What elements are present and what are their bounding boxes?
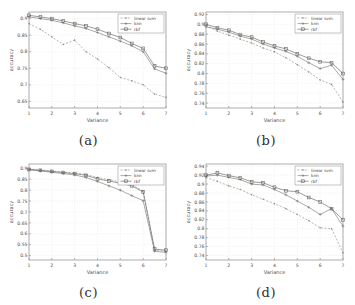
svg-text:knn: knn	[134, 21, 142, 26]
svg-text:0.82: 0.82	[194, 217, 204, 222]
svg-text:5: 5	[296, 111, 299, 116]
svg-text:0.75: 0.75	[17, 199, 27, 204]
svg-text:rbf: rbf	[134, 27, 140, 32]
svg-text:7: 7	[164, 111, 167, 116]
svg-text:4: 4	[273, 111, 276, 116]
svg-text:0.94: 0.94	[194, 164, 204, 169]
x-axis-label: Variance	[264, 117, 286, 123]
svg-text:0.8: 0.8	[20, 188, 27, 193]
svg-text:rbf: rbf	[134, 179, 140, 184]
svg-text:2: 2	[50, 263, 53, 268]
y-axis-label: accuracy	[7, 49, 14, 72]
legend: linear svmknnrbf	[118, 166, 164, 185]
svg-text:4: 4	[273, 263, 276, 268]
svg-text:0.86: 0.86	[194, 42, 204, 47]
x-axis-label: Variance	[86, 269, 108, 275]
subplot-caption-c: (c)	[79, 285, 98, 300]
legend: linear svmknnrbf	[295, 14, 341, 33]
svg-text:3: 3	[250, 263, 253, 268]
chart-canvas-d: 12345670.740.760.780.80.820.840.860.880.…	[183, 158, 349, 284]
chart-canvas-c: 12345670.50.550.60.650.70.750.80.850.9Va…	[6, 158, 172, 284]
svg-text:7: 7	[164, 263, 167, 268]
svg-text:0.6: 0.6	[20, 231, 27, 236]
svg-text:0.82: 0.82	[194, 61, 204, 66]
svg-text:2: 2	[227, 263, 230, 268]
svg-text:rbf: rbf	[311, 179, 317, 184]
x-axis-label: Variance	[264, 269, 286, 275]
svg-text:0.84: 0.84	[194, 51, 204, 56]
svg-text:knn: knn	[311, 173, 319, 178]
svg-text:0.86: 0.86	[194, 200, 204, 205]
svg-text:0.9: 0.9	[197, 182, 204, 187]
svg-text:linear svm: linear svm	[134, 168, 156, 173]
svg-text:0.7: 0.7	[20, 82, 27, 87]
svg-text:1: 1	[27, 263, 30, 268]
x-axis-label: Variance	[86, 117, 108, 123]
svg-text:0.88: 0.88	[194, 32, 204, 37]
svg-text:0.76: 0.76	[194, 244, 204, 249]
svg-text:1: 1	[27, 111, 30, 116]
svg-text:0.92: 0.92	[194, 173, 204, 178]
svg-text:linear svm: linear svm	[311, 16, 333, 21]
y-axis-label: accuracy	[185, 49, 192, 72]
svg-text:0.65: 0.65	[17, 221, 27, 226]
subplot-caption-a: (a)	[79, 133, 98, 148]
svg-text:knn: knn	[134, 173, 142, 178]
svg-text:0.8: 0.8	[20, 49, 27, 54]
svg-text:6: 6	[319, 111, 322, 116]
svg-text:2: 2	[50, 111, 53, 116]
y-axis-label: accuracy	[185, 201, 192, 224]
figure-2x2-grid: 12345670.650.70.750.80.850.9Varianceaccu…	[0, 0, 355, 305]
chart-canvas-a: 12345670.650.70.750.80.850.9Varianceaccu…	[6, 6, 172, 132]
svg-text:4: 4	[96, 263, 99, 268]
svg-text:0.85: 0.85	[17, 177, 27, 182]
svg-text:0.65: 0.65	[17, 99, 27, 104]
svg-text:0.78: 0.78	[194, 235, 204, 240]
svg-text:5: 5	[118, 111, 121, 116]
svg-text:1: 1	[205, 263, 208, 268]
svg-text:0.76: 0.76	[194, 91, 204, 96]
legend: linear svmknnrbf	[295, 166, 341, 185]
svg-text:0.84: 0.84	[194, 208, 204, 213]
svg-text:3: 3	[73, 111, 76, 116]
svg-text:0.9: 0.9	[20, 16, 27, 21]
svg-text:6: 6	[319, 263, 322, 268]
svg-text:0.78: 0.78	[194, 81, 204, 86]
svg-text:3: 3	[73, 263, 76, 268]
subplot-a: 12345670.650.70.750.80.850.9Varianceaccu…	[0, 0, 177, 152]
subplot-caption-b: (b)	[256, 133, 276, 148]
svg-text:6: 6	[141, 263, 144, 268]
subplot-d: 12345670.740.760.780.80.820.840.860.880.…	[177, 152, 355, 305]
svg-text:0.9: 0.9	[20, 166, 27, 171]
subplot-caption-d: (d)	[256, 285, 276, 300]
svg-text:6: 6	[141, 111, 144, 116]
svg-text:5: 5	[118, 263, 121, 268]
legend: linear svmknnrbf	[118, 14, 164, 33]
svg-text:4: 4	[96, 111, 99, 116]
subplot-c: 12345670.50.550.60.650.70.750.80.850.9Va…	[0, 152, 177, 305]
svg-text:0.8: 0.8	[197, 226, 204, 231]
svg-text:5: 5	[296, 263, 299, 268]
svg-text:0.74: 0.74	[194, 253, 204, 258]
svg-text:3: 3	[250, 111, 253, 116]
svg-text:knn: knn	[311, 21, 319, 26]
svg-text:0.8: 0.8	[197, 71, 204, 76]
y-axis-label: accuracy	[7, 201, 14, 224]
svg-text:1: 1	[205, 111, 208, 116]
svg-text:7: 7	[342, 263, 345, 268]
svg-text:0.74: 0.74	[194, 101, 204, 106]
svg-text:0.9: 0.9	[197, 22, 204, 27]
svg-text:0.55: 0.55	[17, 242, 27, 247]
svg-text:0.7: 0.7	[20, 210, 27, 215]
svg-text:0.88: 0.88	[194, 191, 204, 196]
svg-text:0.75: 0.75	[17, 66, 27, 71]
svg-text:7: 7	[342, 111, 345, 116]
svg-text:linear svm: linear svm	[311, 168, 333, 173]
svg-text:0.85: 0.85	[17, 33, 27, 38]
svg-text:linear svm: linear svm	[134, 16, 156, 21]
subplot-b: 12345670.740.760.780.80.820.840.860.880.…	[177, 0, 355, 152]
svg-text:0.92: 0.92	[194, 12, 204, 17]
svg-text:2: 2	[227, 111, 230, 116]
svg-text:0.5: 0.5	[20, 253, 27, 258]
svg-text:rbf: rbf	[311, 27, 317, 32]
